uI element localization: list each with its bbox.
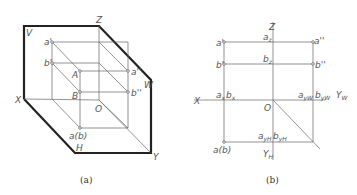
caption-a: (a)	[80, 175, 92, 185]
figure-a: V Z W X O Y H a' b' A B a'' b'' a(b) (a)	[14, 15, 160, 185]
label-b-double-prime: b''	[131, 88, 142, 98]
label-ab-h-b: a(b)	[213, 145, 231, 155]
label-ayh: ayH	[258, 131, 272, 143]
point-a-double-prime	[127, 70, 130, 73]
label-Z: Z	[95, 15, 103, 25]
label-Yw: YW	[336, 90, 349, 101]
point-A	[79, 70, 82, 73]
label-az: az	[263, 32, 273, 43]
label-b-double-prime-b: b''	[315, 60, 326, 70]
label-A: A	[71, 70, 78, 80]
label-a-double-prime-b: a''	[314, 36, 324, 46]
label-X: X	[14, 95, 22, 105]
label-byh: byH	[273, 131, 287, 143]
label-W: W	[144, 80, 154, 90]
label-a-double-prime: a''	[131, 67, 141, 77]
label-V: V	[26, 28, 33, 38]
label-Yh: YH	[263, 149, 274, 160]
label-H: H	[76, 143, 83, 153]
diagram-canvas: V Z W X O Y H a' b' A B a'' b'' a(b) (a)	[0, 0, 357, 195]
point-B	[79, 91, 82, 94]
label-Z-b: Z	[268, 22, 276, 32]
axis-x	[24, 99, 99, 100]
label-B: B	[72, 91, 78, 101]
label-O: O	[95, 104, 102, 114]
figure-b: Z az bz a' b' a'' b'' X ax bx O ayW byW …	[193, 22, 349, 185]
label-ab-h: a(b)	[69, 131, 87, 141]
point-ab-h-b	[223, 141, 226, 144]
label-b-prime: b'	[44, 58, 52, 68]
point-ab-h	[79, 127, 82, 130]
point-b-double-prime	[127, 91, 130, 94]
label-Y: Y	[153, 152, 160, 162]
point-b-double-prime-b	[312, 63, 315, 66]
label-a-prime-b: a'	[216, 38, 224, 48]
label-b-prime-b: b'	[216, 60, 224, 70]
label-a-prime: a'	[44, 37, 52, 47]
label-X-b: X	[193, 96, 201, 106]
caption-b: (b)	[266, 175, 279, 185]
label-bx: bx	[226, 90, 236, 101]
label-bz: bz	[263, 54, 273, 65]
label-O-b: O	[264, 103, 271, 113]
